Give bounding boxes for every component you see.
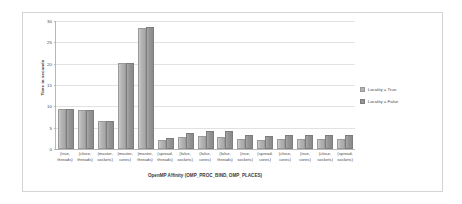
bar-group [275, 21, 295, 149]
bar-locality-true [78, 110, 86, 149]
bar-locality-true [297, 139, 305, 149]
bar-locality-true [198, 136, 206, 149]
plot-area [55, 21, 355, 150]
x-axis-title: OpenMP Affinity (OMP_PROC_BIND, OMP_PLAC… [55, 173, 355, 178]
bar-group [176, 21, 196, 149]
bar-locality-false [305, 135, 313, 149]
bar-locality-false [186, 133, 194, 149]
x-tick-label: (true,cores) [295, 151, 315, 173]
x-tick-label: (spread,sockets) [335, 151, 355, 173]
bar-locality-true [58, 109, 66, 149]
y-axis-tick-labels: 302520151050 [37, 21, 52, 149]
bar-locality-true [118, 63, 126, 149]
bar-locality-true [237, 139, 245, 149]
y-tick-label: 25 [47, 40, 52, 45]
y-tick-label: 30 [47, 19, 52, 24]
bar-locality-false [265, 136, 273, 149]
x-tick-label-line: (master, [95, 151, 115, 157]
bar-locality-false [66, 109, 74, 149]
y-tickmark [54, 149, 56, 150]
bar-locality-true [98, 121, 106, 149]
bar-locality-true [178, 137, 186, 149]
chart-container: Time in seconds 302520151050 (true,threa… [22, 12, 443, 192]
x-tick-label-line: (spread, [255, 151, 275, 157]
x-tick-label-line: (master, [135, 151, 155, 157]
x-tick-label: (false,threads) [215, 151, 235, 173]
x-tick-label-line: sockets) [175, 157, 195, 163]
legend-swatch-icon [360, 99, 365, 104]
bar-group [295, 21, 315, 149]
bar-locality-false [225, 131, 233, 149]
plot-wrapper: Time in seconds 302520151050 (true,threa… [23, 13, 442, 191]
bar-group [136, 21, 156, 149]
y-tick-label: 0 [50, 147, 52, 152]
bar-group [196, 21, 216, 149]
bar-locality-false [285, 135, 293, 149]
x-tick-label: (spread,threads) [155, 151, 175, 173]
x-tick-label-line: cores) [275, 157, 295, 163]
y-tick-label: 20 [47, 61, 52, 66]
legend-item[interactable]: Locality = True [360, 87, 436, 92]
x-tick-label: (master,cores) [115, 151, 135, 173]
bar-locality-true [158, 140, 166, 149]
x-tick-label-line: (spread, [155, 151, 175, 157]
bar-locality-true [317, 139, 325, 149]
bar-locality-false [106, 121, 114, 149]
y-tick-label: 15 [47, 83, 52, 88]
bar-series-layer [56, 21, 355, 149]
bar-locality-false [146, 27, 154, 149]
bar-locality-false [126, 63, 134, 149]
x-tick-label-line: sockets) [315, 157, 335, 163]
x-tick-label-line: cores) [115, 157, 135, 163]
x-tick-label: (close,threads) [75, 151, 95, 173]
bar-group [255, 21, 275, 149]
bar-locality-true [217, 137, 225, 149]
x-tick-label-line: threads) [155, 157, 175, 163]
bar-locality-true [257, 140, 265, 149]
x-tick-label: (spread,cores) [255, 151, 275, 173]
x-tick-label-line: sockets) [335, 157, 355, 163]
x-tick-label: (false,sockets) [175, 151, 195, 173]
legend-label: Locality = True [368, 87, 397, 92]
x-axis-tick-labels: (true,threads)(close,threads)(master,soc… [55, 151, 355, 173]
bar-locality-false [325, 135, 333, 149]
x-tick-label-line: cores) [255, 157, 275, 163]
x-tick-label-line: threads) [215, 157, 235, 163]
x-tick-label-line: threads) [135, 157, 155, 163]
bar-group [76, 21, 96, 149]
x-tick-label: (true,sockets) [235, 151, 255, 173]
x-tick-label-line: threads) [55, 157, 75, 163]
x-tick-label-line: sockets) [95, 157, 115, 163]
bar-group [96, 21, 116, 149]
bar-group [216, 21, 236, 149]
legend-swatch-icon [360, 87, 365, 92]
legend-item[interactable]: Locality = False [360, 99, 436, 104]
bar-locality-false [345, 135, 353, 149]
bar-locality-false [86, 110, 94, 149]
bar-group [56, 21, 76, 149]
x-tick-label: (false,cores) [195, 151, 215, 173]
x-tick-label-line: cores) [195, 157, 215, 163]
bar-group [315, 21, 335, 149]
bar-locality-false [245, 135, 253, 149]
bar-group [156, 21, 176, 149]
x-tick-label-line: (master, [115, 151, 135, 157]
bar-group [235, 21, 255, 149]
x-tick-label-line: sockets) [235, 157, 255, 163]
bar-group [116, 21, 136, 149]
bar-locality-true [337, 139, 345, 149]
x-tick-label-line: (spread, [335, 151, 355, 157]
y-tick-label: 5 [50, 125, 52, 130]
bar-group [335, 21, 355, 149]
x-tick-label-line: cores) [295, 157, 315, 163]
bar-locality-false [166, 138, 174, 149]
bar-locality-true [138, 28, 146, 149]
x-tick-label: (master,threads) [135, 151, 155, 173]
bar-locality-true [277, 139, 285, 149]
y-tick-label: 10 [47, 104, 52, 109]
x-tick-label: (close,sockets) [315, 151, 335, 173]
bar-locality-false [206, 131, 214, 149]
x-tick-label-line: threads) [75, 157, 95, 163]
x-tick-label: (master,sockets) [95, 151, 115, 173]
x-tick-label: (close,cores) [275, 151, 295, 173]
